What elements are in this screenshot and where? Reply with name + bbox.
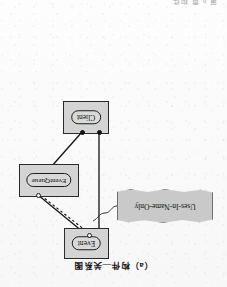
note-banner[interactable]: Uses-In-Name-Only	[117, 189, 213, 223]
node-client-label: Client	[71, 110, 101, 125]
edge-client-queue	[51, 132, 82, 167]
provided-port-icon	[80, 130, 85, 135]
node-eventqueue[interactable]: EventQueue	[19, 164, 79, 197]
rotated-content-layer: 第 6 章 构件 （a）构件—关系图 Event EventQueue Clie…	[0, 0, 227, 287]
required-interface-socket-icon	[36, 193, 41, 198]
node-event[interactable]: Event	[64, 228, 109, 259]
note-leader-line	[93, 206, 117, 221]
connector-lines	[0, 0, 227, 287]
scanned-page: 第 6 章 构件 （a）构件—关系图 Event EventQueue Clie…	[0, 0, 227, 287]
node-event-label: Event	[72, 236, 102, 251]
node-client[interactable]: Client	[63, 101, 109, 134]
provided-port-icon	[97, 130, 102, 135]
note-label: Uses-In-Name-Only	[117, 202, 213, 211]
required-interface-socket-icon	[87, 233, 92, 238]
node-eventqueue-label: EventQueue	[27, 174, 72, 188]
